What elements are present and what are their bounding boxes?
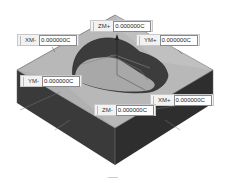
ym-plus-label: YM+	[139, 36, 160, 45]
ym-minus-label: YM-	[23, 77, 42, 86]
zm-minus-label: ZM-	[97, 106, 116, 115]
ym-plus-handle[interactable]: YM+ 0.000000C	[136, 34, 200, 46]
xm-minus-input[interactable]: 0.000000C	[39, 35, 77, 46]
zm-minus-handle[interactable]: ZM- 0.000000C	[94, 104, 156, 116]
xm-plus-label: XM+	[153, 96, 174, 105]
zm-minus-input[interactable]: 0.000000C	[116, 105, 154, 116]
ym-plus-input[interactable]: 0.000000C	[160, 35, 198, 46]
zm-plus-handle[interactable]: ZM+ 0.000000C	[90, 20, 153, 32]
ym-minus-input[interactable]: 0.000000C	[42, 76, 80, 87]
xm-plus-input[interactable]: 0.000000C	[174, 95, 212, 106]
ym-minus-handle[interactable]: YM- 0.000000C	[20, 75, 82, 87]
viewport-marker	[108, 177, 118, 178]
xm-minus-handle[interactable]: XM- 0.000000C	[17, 34, 79, 46]
xm-plus-handle[interactable]: XM+ 0.000000C	[150, 94, 214, 106]
zm-plus-input[interactable]: 0.000000C	[113, 21, 151, 32]
xm-minus-label: XM-	[20, 36, 39, 45]
zm-plus-label: ZM+	[93, 22, 113, 31]
